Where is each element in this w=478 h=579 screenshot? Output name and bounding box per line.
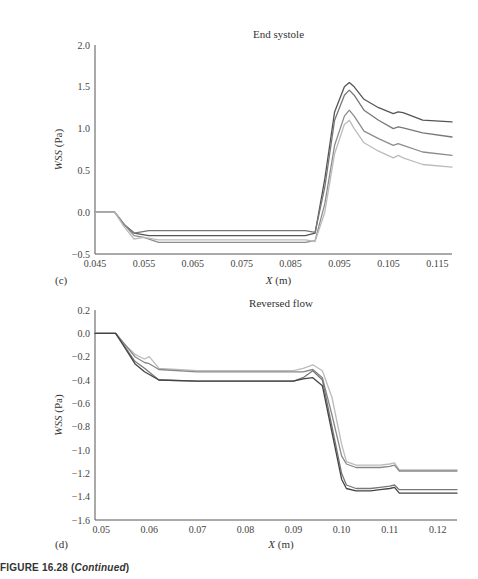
x-axis-label: X (m) [265,274,292,287]
caption-italic: Continued [75,562,126,573]
y-tick-label: 0.2 [78,305,91,316]
caption-prefix: FIGURE 16.28 ( [0,562,75,573]
data-series-line [95,333,457,471]
y-tick-label: −1.0 [72,445,90,456]
y-tick-label: −1.2 [72,468,90,479]
figure-canvas: End systole2.01.51.00.50.0−0.50.0450.055… [0,0,478,579]
x-tick-label: 0.095 [328,258,351,269]
y-tick-label: −1.6 [72,515,90,526]
y-tick-label: −0.4 [72,375,90,386]
x-tick-label: 0.12 [429,524,447,535]
x-axis-label: X (m) [267,538,294,551]
y-tick-label: −0.6 [72,398,90,409]
y-tick-label: 1.0 [78,123,91,134]
caption-suffix: ) [126,562,130,573]
y-tick-label: 0.0 [78,328,91,339]
y-tick-label: −0.2 [72,351,90,362]
x-tick-label: 0.11 [381,524,398,535]
x-tick-label: 0.045 [84,258,107,269]
y-tick-label: 1.5 [78,81,91,92]
y-tick-label: 2.0 [78,40,91,51]
x-tick-label: 0.055 [133,258,156,269]
data-series-line [95,83,452,236]
y-tick-label: 0.0 [78,207,91,218]
y-tick-label: 0.5 [78,165,91,176]
x-tick-label: 0.09 [285,524,303,535]
panel-label: (d) [55,538,68,551]
chart-title: End systole [253,28,304,40]
x-tick-label: 0.065 [182,258,205,269]
x-tick-label: 0.06 [141,524,159,535]
x-tick-label: 0.08 [237,524,255,535]
panel-label: (c) [55,274,68,287]
x-tick-label: 0.075 [230,258,253,269]
x-tick-label: 0.105 [377,258,400,269]
data-series-line [95,120,452,241]
y-tick-label: −1.4 [72,491,90,502]
x-tick-label: 0.10 [333,524,351,535]
y-axis-label: WSS (Pa) [52,129,65,171]
y-axis-label: WSS (Pa) [52,394,65,436]
x-tick-label: 0.115 [426,258,448,269]
x-tick-label: 0.085 [279,258,302,269]
data-series-line [95,333,457,470]
figure-caption: FIGURE 16.28 (Continued) [0,562,129,573]
data-series-line [95,110,452,242]
x-tick-label: 0.07 [189,524,207,535]
chart-title: Reversed flow [249,297,313,309]
y-tick-label: −0.8 [72,421,90,432]
x-tick-label: 0.05 [92,524,110,535]
